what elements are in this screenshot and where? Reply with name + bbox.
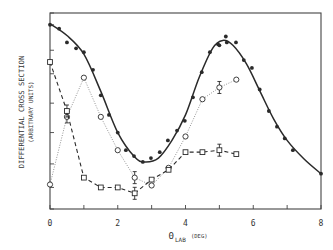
- filled-circle-point: [82, 50, 86, 54]
- open-square-point: [98, 185, 103, 190]
- series-open-squares: [48, 60, 239, 200]
- filled-circle-point: [141, 160, 145, 164]
- plot-border: [50, 13, 321, 209]
- filled-circle-point: [183, 119, 187, 123]
- cross-section-chart: 02468 DIFFERENTIAL CROSS SECTION (ARBITR…: [0, 0, 333, 250]
- filled-circle-point: [166, 139, 170, 143]
- y-axis-label: DIFFERENTIAL CROSS SECTION: [17, 56, 26, 169]
- x-axis-label-unit: (DEG): [191, 233, 208, 239]
- open-circle-point: [115, 148, 120, 153]
- open-square-point: [234, 152, 239, 157]
- filled-circle-point: [242, 58, 246, 62]
- filled-circle-point: [225, 41, 229, 45]
- filled-circle-point: [116, 131, 120, 135]
- y-axis-sublabel: (ARBITRARY UNITS): [27, 81, 34, 142]
- filled-circle-point: [149, 156, 153, 160]
- open-square-point: [132, 191, 137, 196]
- filled-circle-point: [191, 95, 195, 99]
- filled-circle-point: [175, 129, 179, 133]
- filled-circle-point: [283, 137, 287, 141]
- x-tick-labels: 02468: [48, 219, 324, 228]
- filled-circle-point: [65, 41, 69, 45]
- filled-circle-point: [200, 70, 204, 74]
- open-square-point: [200, 150, 205, 155]
- x-axis-label-subscript: LAB: [175, 236, 186, 243]
- filled-circle-point: [291, 148, 295, 152]
- filled-circle-point: [107, 113, 111, 117]
- filled-circle-point: [132, 154, 136, 158]
- filled-circle-point: [258, 88, 262, 92]
- open-square-point: [115, 185, 120, 190]
- filled-circle-point: [224, 35, 228, 39]
- filled-circle-point: [124, 148, 128, 152]
- open-square-point: [149, 177, 154, 182]
- open-circle-point: [98, 114, 103, 119]
- open-square-point: [65, 109, 70, 114]
- open-square-point: [166, 167, 171, 172]
- filled-circle-point: [217, 43, 221, 47]
- dashed-line: [50, 62, 236, 193]
- filled-circle-point: [99, 93, 103, 97]
- filled-circle-point: [250, 66, 254, 70]
- dotted-line: [50, 78, 236, 186]
- filled-circle-point: [48, 23, 52, 27]
- open-circle-point: [217, 85, 222, 90]
- open-circle-point: [234, 77, 239, 82]
- open-circle-point: [132, 175, 137, 180]
- x-tick-label: 4: [183, 219, 188, 228]
- open-square-point: [217, 148, 222, 153]
- open-square-point: [183, 150, 188, 155]
- filled-circle-point: [275, 125, 279, 129]
- axis-ticks: [50, 13, 321, 209]
- open-circle-point: [183, 134, 188, 139]
- filled-circle-point: [91, 68, 95, 72]
- x-tick-label: 6: [251, 219, 256, 228]
- filled-circle-point: [234, 41, 238, 45]
- x-tick-label: 2: [115, 219, 120, 228]
- x-axis-label-theta: Θ: [169, 231, 174, 241]
- open-circle-point: [149, 183, 154, 188]
- open-square-point: [48, 60, 53, 65]
- open-square-point: [81, 175, 86, 180]
- x-tick-label: 8: [319, 219, 324, 228]
- filled-circle-point: [267, 109, 271, 113]
- filled-circle-point: [319, 172, 323, 176]
- open-circle-point: [47, 182, 52, 187]
- series-open-circles: [47, 75, 239, 188]
- open-circle-point: [81, 75, 86, 80]
- filled-circle-point: [208, 50, 212, 54]
- filled-circle-point: [158, 150, 162, 154]
- x-tick-label: 0: [48, 219, 53, 228]
- x-axis-label: Θ LAB (DEG): [169, 231, 208, 243]
- filled-circle-point: [57, 27, 61, 31]
- filled-circle-point: [74, 46, 78, 50]
- plot-frame: [50, 13, 321, 209]
- open-circle-point: [200, 97, 205, 102]
